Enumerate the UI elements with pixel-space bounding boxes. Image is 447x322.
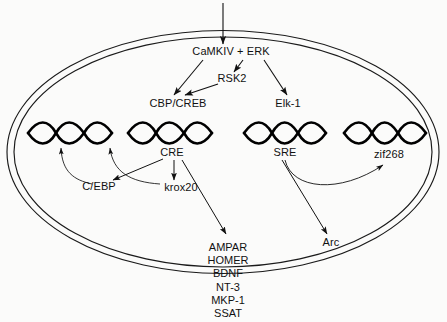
edge-camkiv-to-cbpcreb — [174, 60, 203, 95]
edge-sre-to-arc — [282, 160, 327, 234]
edge-cebp-to-dna1 — [61, 148, 92, 184]
pathway-figure: CaMKIV + ERK RSK2 CBP/CREB Elk-1 CRE SRE… — [0, 0, 447, 322]
node-cre: CRE — [160, 147, 184, 159]
edge-cre-to-cebp — [113, 159, 163, 180]
dna-helix-1 — [28, 123, 112, 144]
edge-camkiv-to-elk1 — [264, 60, 287, 95]
dna-helix-3 — [244, 123, 326, 144]
node-sre: SRE — [274, 147, 297, 159]
gene-item-ssat: SSAT — [208, 307, 249, 320]
gene-item-mkp1: MKP-1 — [208, 294, 249, 307]
induced-gene-list: AMPAR HOMER BDNF NT-3 MKP-1 SSAT — [208, 241, 249, 320]
edge-sre-to-zif268 — [285, 160, 383, 185]
dna-helix-2 — [128, 123, 212, 144]
edge-camkiv-to-rsk2 — [234, 60, 243, 72]
node-krox20: krox20 — [164, 182, 198, 194]
edge-rsk2-to-cbpcreb — [185, 84, 218, 95]
node-cebp: C/EBP — [82, 181, 116, 193]
gene-item-nt3: NT-3 — [208, 281, 249, 294]
node-elk1: Elk-1 — [275, 98, 301, 110]
dna-helix-4 — [344, 123, 426, 144]
node-arc: Arc — [323, 237, 340, 249]
gene-item-bdnf: BDNF — [208, 267, 249, 280]
node-cbp-creb: CBP/CREB — [149, 98, 206, 110]
gene-item-homer: HOMER — [208, 254, 249, 267]
node-rsk2: RSK2 — [217, 73, 246, 85]
gene-item-ampar: AMPAR — [208, 241, 249, 254]
node-camkiv-erk: CaMKIV + ERK — [192, 46, 269, 58]
node-zif268: zif268 — [374, 149, 404, 161]
edge-cre-to-genes — [182, 160, 226, 234]
